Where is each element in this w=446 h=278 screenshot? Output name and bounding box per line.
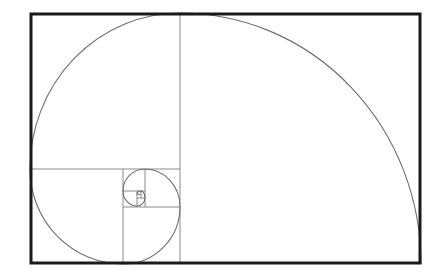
background: [0, 0, 446, 278]
golden-spiral-diagram: [0, 0, 446, 278]
